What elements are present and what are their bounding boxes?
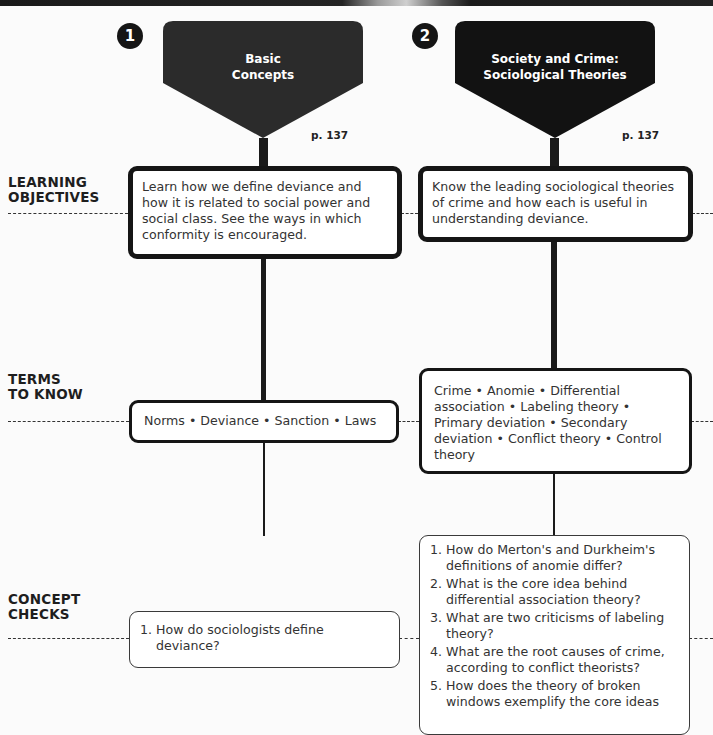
dashed-guide-terms-left xyxy=(8,421,129,422)
terms-box: Crime • Anomie • Differential associatio… xyxy=(419,368,692,474)
item-text: What are two criticisms of labeling theo… xyxy=(446,610,664,641)
item-text: How do Merton's and Durkheim's definitio… xyxy=(446,542,655,573)
terms-box: Norms • Deviance • Sanction • Laws xyxy=(129,400,399,443)
dashed-guide-terms-right xyxy=(691,421,713,422)
section-number-badge: 2 xyxy=(412,23,438,49)
terms-text: Crime • Anomie • Differential associatio… xyxy=(434,383,677,463)
section-title-line: Sociological Theories xyxy=(455,67,655,83)
concept-check-item: 2. What is the core idea behind differen… xyxy=(430,576,679,608)
concept-checks-box: 1. How do Merton's and Durkheim's defini… xyxy=(419,535,690,735)
item-number: 5. xyxy=(430,678,442,694)
concept-checks-list: 1. How do Merton's and Durkheim's defini… xyxy=(430,542,679,710)
concept-check-item: 1. How do Merton's and Durkheim's defini… xyxy=(430,542,679,574)
row-label-line: TO KNOW xyxy=(8,387,83,402)
page-reference-link[interactable]: p. 137 xyxy=(311,129,348,141)
item-text: What is the core idea behind differentia… xyxy=(446,576,641,607)
learning-objective-box: Know the leading sociological theories o… xyxy=(418,166,693,242)
dashed-guide-cc-left xyxy=(8,638,129,639)
item-text: What are the root causes of crime, accor… xyxy=(446,644,665,675)
dashed-guide-lo-left xyxy=(8,213,128,214)
dashed-guide-terms-middle xyxy=(398,421,419,422)
concept-checks-list: 1. How do sociologists define deviance? xyxy=(140,622,389,654)
item-number: 1. xyxy=(140,622,152,638)
concept-check-item: 5. How does the theory of broken windows… xyxy=(430,678,679,710)
section-title-line: Society and Crime: xyxy=(455,51,655,67)
connector-stem xyxy=(261,256,266,402)
item-number: 3. xyxy=(430,610,442,626)
item-number: 1. xyxy=(430,542,442,558)
connector-stem xyxy=(263,440,265,536)
header-photo-strip xyxy=(0,0,713,6)
row-label-terms-to-know: TERMS TO KNOW xyxy=(8,372,83,402)
concept-checks-box: 1. How do sociologists define deviance? xyxy=(129,611,400,668)
dashed-guide-cc-middle xyxy=(399,638,419,639)
row-label-concept-checks: CONCEPT CHECKS xyxy=(8,592,80,622)
row-label-line: CHECKS xyxy=(8,607,80,622)
row-label-learning-objectives: LEARNING OBJECTIVES xyxy=(8,175,100,205)
item-text: How does the theory of broken windows ex… xyxy=(446,678,659,709)
connector-stem xyxy=(550,138,559,168)
dashed-guide-lo-middle xyxy=(401,213,418,214)
section-title: Basic Concepts xyxy=(163,51,363,83)
row-label-line: LEARNING xyxy=(8,175,100,190)
dashed-guide-lo-right xyxy=(692,213,713,214)
dashed-guide-cc-right xyxy=(689,638,713,639)
connector-stem xyxy=(551,239,557,370)
item-text: How do sociologists define deviance? xyxy=(156,622,324,653)
connector-stem xyxy=(259,138,268,168)
item-number: 4. xyxy=(430,644,442,660)
concept-check-item: 4. What are the root causes of crime, ac… xyxy=(430,644,679,676)
terms-text: Norms • Deviance • Sanction • Laws xyxy=(144,413,384,429)
learning-objective-box: Learn how we define deviance and how it … xyxy=(128,166,402,259)
learning-objective-text: Know the leading sociological theories o… xyxy=(432,179,679,227)
learning-objective-text: Learn how we define deviance and how it … xyxy=(142,179,388,243)
section-header-basic-concepts[interactable]: Basic Concepts xyxy=(163,21,363,139)
section-title-line: Concepts xyxy=(163,67,363,83)
connector-stem xyxy=(553,471,555,536)
row-label-line: OBJECTIVES xyxy=(8,190,100,205)
concept-check-item: 3. What are two criticisms of labeling t… xyxy=(430,610,679,642)
page-reference-link[interactable]: p. 137 xyxy=(622,129,659,141)
section-number-badge: 1 xyxy=(117,23,143,49)
item-number: 2. xyxy=(430,576,442,592)
section-title: Society and Crime: Sociological Theories xyxy=(455,51,655,83)
section-header-society-and-crime[interactable]: Society and Crime: Sociological Theories xyxy=(455,21,655,139)
section-title-line: Basic xyxy=(163,51,363,67)
row-label-line: TERMS xyxy=(8,372,83,387)
concept-check-item: 1. How do sociologists define deviance? xyxy=(140,622,389,654)
row-label-line: CONCEPT xyxy=(8,592,80,607)
